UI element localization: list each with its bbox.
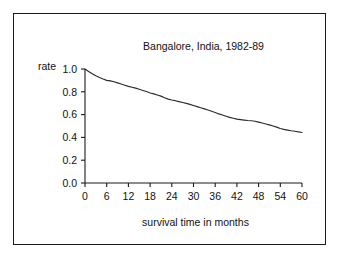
y-axis: 0.00.20.40.60.81.0 [62,63,85,189]
x-tick-label: 24 [166,190,178,202]
survival-curve [85,69,302,133]
x-axis-tick-labels: 06121824303642485460 [82,190,308,202]
y-tick-label: 1.0 [62,63,77,75]
y-tick-label: 0.8 [62,86,77,98]
x-tick-label: 36 [209,190,221,202]
x-axis-title: survival time in months [142,216,249,228]
x-tick-label: 0 [82,190,88,202]
y-tick-label: 0.4 [62,131,77,143]
figure-root: Bangalore, India, 1982-89 rate survival … [0,0,339,258]
y-tick-label: 0.0 [62,177,77,189]
y-axis-ticks [81,69,85,183]
x-tick-label: 12 [123,190,135,202]
x-tick-label: 42 [231,190,243,202]
x-tick-label: 60 [296,190,308,202]
figure-border: Bangalore, India, 1982-89 rate survival … [13,13,326,245]
y-tick-label: 0.2 [62,154,77,166]
y-axis-tick-labels: 0.00.20.40.60.81.0 [62,63,77,189]
y-tick-label: 0.6 [62,108,77,120]
x-tick-label: 54 [274,190,286,202]
x-axis: 06121824303642485460 [82,183,308,202]
x-tick-label: 48 [253,190,265,202]
x-tick-label: 6 [104,190,110,202]
y-axis-title: rate [38,60,56,72]
x-tick-label: 18 [144,190,156,202]
x-axis-ticks [85,183,302,187]
x-tick-label: 30 [188,190,200,202]
chart-title: Bangalore, India, 1982-89 [143,40,264,52]
survival-rate-line-chart: Bangalore, India, 1982-89 rate survival … [14,14,324,243]
